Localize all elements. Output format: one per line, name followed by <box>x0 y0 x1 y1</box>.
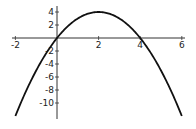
ticks <box>15 12 181 103</box>
y-tick-label: -4 <box>45 59 54 69</box>
y-tick-label: 2 <box>48 20 54 30</box>
y-tick-label: -6 <box>45 72 54 82</box>
y-tick-label: -8 <box>45 85 54 95</box>
y-tick-label: 4 <box>48 7 54 17</box>
x-tick-label: 2 <box>96 40 102 50</box>
x-tick-label: 6 <box>179 40 185 50</box>
x-tick-label: -2 <box>11 40 20 50</box>
tick-labels: -224642-2-4-6-8-10 <box>11 7 185 108</box>
axes <box>12 6 185 119</box>
y-tick-label: -10 <box>39 98 54 108</box>
parabola-plot: -224642-2-4-6-8-10 <box>0 0 196 129</box>
